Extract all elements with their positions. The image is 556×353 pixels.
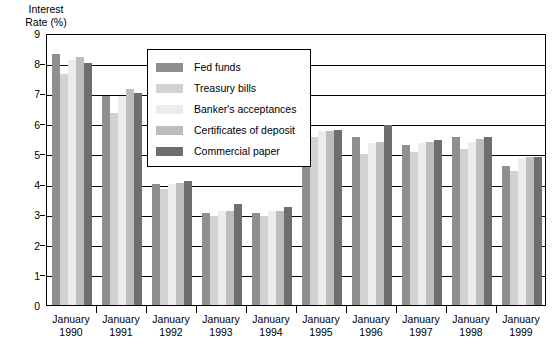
bar xyxy=(526,157,534,305)
chart-legend: Fed fundsTreasury billsBanker's acceptan… xyxy=(147,49,311,167)
legend-item-label: Commercial paper xyxy=(194,146,280,157)
y-tick-label: 7 xyxy=(0,89,40,99)
bar xyxy=(276,211,284,305)
x-tick-label: January 1996 xyxy=(343,313,399,338)
bar xyxy=(360,154,368,305)
bar xyxy=(210,216,218,305)
bar xyxy=(384,125,392,305)
bar xyxy=(284,207,292,305)
bar xyxy=(60,74,68,305)
x-tick-label: January 1990 xyxy=(43,313,99,338)
bar xyxy=(402,145,410,305)
x-separator-tick xyxy=(246,306,247,313)
y-tick-label: 2 xyxy=(0,241,40,251)
x-separator-tick xyxy=(446,306,447,313)
y-tick-label: 0 xyxy=(0,301,40,311)
chart-figure: Interest Rate (%) 0123456789January 1990… xyxy=(0,0,556,353)
x-separator-tick xyxy=(496,306,497,313)
legend-item-label: Certificates of deposit xyxy=(194,125,295,136)
y-tick-label: 8 xyxy=(0,59,40,69)
bar xyxy=(310,137,318,305)
bar xyxy=(484,137,492,305)
bar xyxy=(118,96,126,305)
x-tick-label: January 1995 xyxy=(293,313,349,338)
bar xyxy=(260,216,268,305)
y-tick-mark xyxy=(40,154,45,155)
legend-swatch-icon xyxy=(156,84,183,93)
bar xyxy=(452,137,460,305)
x-separator-tick xyxy=(346,306,347,313)
y-tick-label: 9 xyxy=(0,29,40,39)
y-tick-mark xyxy=(40,185,45,186)
y-tick-mark xyxy=(40,94,45,95)
x-separator-tick xyxy=(146,306,147,313)
x-tick-label: January 1997 xyxy=(393,313,449,338)
x-separator-tick xyxy=(396,306,397,313)
bar xyxy=(184,181,192,305)
bar xyxy=(460,149,468,305)
bar xyxy=(268,211,276,305)
bar xyxy=(168,184,176,305)
x-tick-label: January 1993 xyxy=(193,313,249,338)
bar xyxy=(368,143,376,305)
legend-item-label: Banker's acceptances xyxy=(194,104,296,115)
bar xyxy=(84,63,92,305)
y-tick-label: 5 xyxy=(0,150,40,160)
x-tick-label: January 1994 xyxy=(243,313,299,338)
bar xyxy=(352,137,360,305)
bar xyxy=(502,166,510,305)
x-tick-label: January 1991 xyxy=(93,313,149,338)
x-separator-tick xyxy=(96,306,97,313)
bar xyxy=(410,152,418,305)
x-tick-label: January 1992 xyxy=(143,313,199,338)
bar xyxy=(160,189,168,305)
legend-item-label: Fed funds xyxy=(194,62,241,73)
bar-group xyxy=(97,35,147,305)
bar xyxy=(476,139,484,305)
bar xyxy=(318,131,326,305)
legend-item: Treasury bills xyxy=(156,78,256,98)
y-tick-mark xyxy=(40,124,45,125)
bar xyxy=(252,213,260,305)
bar xyxy=(334,130,342,305)
bar xyxy=(418,143,426,305)
bar xyxy=(434,140,442,305)
y-tick-mark xyxy=(40,215,45,216)
x-separator-tick xyxy=(196,306,197,313)
y-tick-mark xyxy=(40,275,45,276)
bar xyxy=(510,171,518,305)
x-separator-tick xyxy=(296,306,297,313)
bar xyxy=(518,158,526,305)
bar xyxy=(426,142,434,305)
bar-group xyxy=(447,35,497,305)
legend-item-label: Treasury bills xyxy=(194,83,256,94)
y-tick-mark xyxy=(40,245,45,246)
legend-swatch-icon xyxy=(156,105,183,114)
y-tick-mark xyxy=(40,64,45,65)
bar xyxy=(226,211,234,305)
bar xyxy=(110,113,118,305)
bar-group xyxy=(347,35,397,305)
bar xyxy=(134,93,142,305)
bar xyxy=(202,213,210,305)
bar xyxy=(376,142,384,305)
y-tick-label: 1 xyxy=(0,271,40,281)
bar xyxy=(234,204,242,305)
bar xyxy=(468,142,476,305)
y-tick-label: 6 xyxy=(0,120,40,130)
bar xyxy=(326,131,334,305)
bar xyxy=(176,183,184,305)
legend-item: Banker's acceptances xyxy=(156,99,296,119)
y-tick-label: 3 xyxy=(0,210,40,220)
bar xyxy=(152,184,160,305)
bar xyxy=(68,60,76,305)
legend-swatch-icon xyxy=(156,147,183,156)
legend-item: Certificates of deposit xyxy=(156,120,295,140)
bar xyxy=(218,211,226,305)
bar xyxy=(52,54,60,305)
bar xyxy=(126,89,134,305)
legend-swatch-icon xyxy=(156,63,183,72)
bar-group xyxy=(397,35,447,305)
bar-group xyxy=(47,35,97,305)
bar xyxy=(102,96,110,305)
